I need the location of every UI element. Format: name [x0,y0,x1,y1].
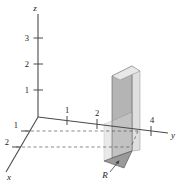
axis-label-y: y [170,130,175,140]
tick-label-x-1: 1 [14,120,18,130]
tick-label-y-4: 4 [150,115,155,125]
tick-label-x-2: 2 [5,137,9,147]
figure-canvas: z y x 3 2 1 1 2 4 1 2 R [0,0,182,183]
axis-label-x: x [6,172,11,182]
tick-label-y-2: 2 [95,108,99,118]
tick-label-z-2: 2 [25,59,29,69]
tick-label-z-1: 1 [25,85,29,95]
side-surface [132,66,140,151]
tick-label-y-1: 1 [65,105,69,115]
axis-x-line [6,117,38,172]
tick-label-z-3: 3 [25,33,29,43]
left-wall [104,121,112,161]
axis-label-z: z [32,3,37,13]
region-label-R: R [101,170,108,180]
axis-y-line [38,117,168,133]
math-figure-3d-region: z y x 3 2 1 1 2 4 1 2 R [0,0,182,183]
